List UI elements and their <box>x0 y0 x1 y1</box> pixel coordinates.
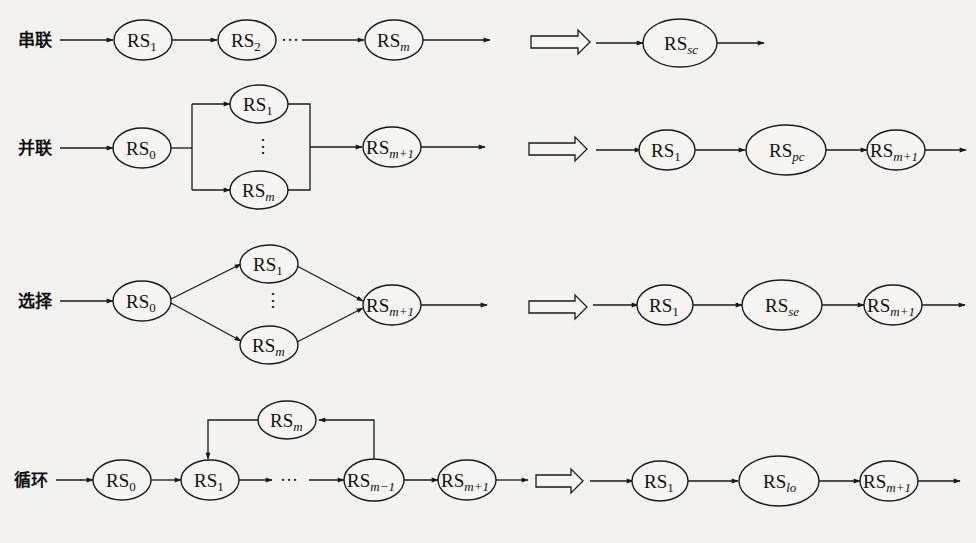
edge-arrow <box>171 264 241 299</box>
node-rs1: RS1 <box>240 245 298 283</box>
edge-loop-back <box>208 420 258 459</box>
node-rsm: RSm <box>365 20 423 60</box>
node-rslo: RSlo <box>739 456 819 506</box>
node-rspc: RSpc <box>746 125 826 175</box>
edge-arrow <box>297 308 363 342</box>
equivalence-arrow-icon <box>529 295 587 319</box>
node-rs1: RS1 <box>181 460 239 500</box>
structure-equivalence-diagram: 串联 RS1 RS2 ··· RSm RSsc 并联 RS0 <box>0 0 976 543</box>
equivalence-arrow-icon <box>529 137 587 161</box>
node-rs1: RS1 <box>637 285 693 325</box>
row-series: 串联 RS1 RS2 ··· RSm RSsc <box>18 19 764 67</box>
node-rsm-minus-1: RSm−1 <box>344 459 404 501</box>
row-parallel: 并联 RS0 RS1 ⋮ RSm RSm+1 RS1 <box>18 85 966 209</box>
edge-arrow <box>171 303 241 341</box>
equivalence-arrow-icon <box>536 469 583 493</box>
ellipsis: ··· <box>281 30 299 50</box>
row-label-parallel: 并联 <box>18 138 52 158</box>
row-label-loop: 循环 <box>14 470 48 490</box>
node-rsm: RSm <box>240 326 298 364</box>
node-rsm-plus-1: RSm+1 <box>860 461 918 501</box>
node-rs1: RS1 <box>639 130 695 170</box>
node-rs0: RS0 <box>113 281 171 321</box>
row-loop: 循环 RS0 RS1 ··· RSm−1 RSm RSm+1 <box>14 401 960 506</box>
node-rs1: RS1 <box>632 461 688 501</box>
node-rs0: RS0 <box>113 128 171 168</box>
node-rsm-plus-1: RSm+1 <box>864 285 922 325</box>
node-rsm-plus-1: RSm+1 <box>438 460 496 500</box>
node-rsse: RSse <box>742 280 822 330</box>
edge-join <box>288 104 310 190</box>
node-rsm-plus-1: RSm+1 <box>363 285 421 325</box>
node-rsm: RSm <box>258 401 316 439</box>
edge-arrow <box>297 266 363 301</box>
node-rs2: RS2 <box>218 20 276 60</box>
node-rs0: RS0 <box>93 460 151 500</box>
row-label-series: 串联 <box>18 30 52 50</box>
ellipsis-vertical: ⋮ <box>254 136 272 156</box>
row-selection: 选择 RS0 RS1 ⋮ RSm RSm+1 RS1 <box>18 245 965 364</box>
node-rssc: RSsc <box>643 19 717 67</box>
edge-loop-back <box>319 420 374 459</box>
node-rsm: RSm <box>230 171 288 209</box>
node-rs1: RS1 <box>230 85 288 123</box>
node-rsm-plus-1: RSm+1 <box>363 127 421 167</box>
ellipsis: ··· <box>280 470 298 490</box>
ellipsis-vertical: ⋮ <box>264 290 282 310</box>
node-rs1: RS1 <box>114 20 172 60</box>
node-rsm-plus-1: RSm+1 <box>867 130 925 170</box>
equivalence-arrow-icon <box>531 30 590 54</box>
row-label-selection: 选择 <box>18 291 53 311</box>
